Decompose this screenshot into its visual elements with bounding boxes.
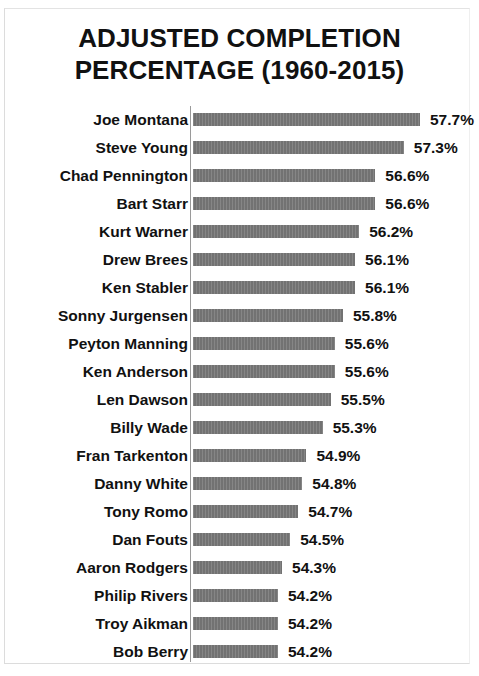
bar-category-label: Ken Anderson [83,358,188,386]
bar-value-label: 56.1% [365,246,409,274]
bar [193,533,290,546]
bar-category-label: Peyton Manning [68,330,188,358]
bar-row: Ken Stabler56.1% [0,274,479,302]
plot-area: Joe Montana57.7%Steve Young57.3%Chad Pen… [0,106,479,666]
bar-category-label: Joe Montana [93,106,188,134]
bar-value-label: 56.1% [365,274,409,302]
bar-value-label: 55.5% [341,386,385,414]
bar-value-label: 56.6% [385,190,429,218]
bar-value-label: 57.3% [414,134,458,162]
bar-value-label: 54.2% [288,638,332,666]
bar-category-label: Dan Fouts [112,526,188,554]
bar-row: Kurt Warner56.2% [0,218,479,246]
bar-category-label: Sonny Jurgensen [58,302,188,330]
bar [193,113,420,126]
bar-category-label: Ken Stabler [102,274,188,302]
bar-value-label: 55.6% [345,358,389,386]
bar [193,449,306,462]
chart-title: ADJUSTED COMPLETION PERCENTAGE (1960-201… [0,22,479,86]
bar-category-label: Bob Berry [113,638,188,666]
bar-row: Steve Young57.3% [0,134,479,162]
bar [193,281,355,294]
bar-row: Tony Romo54.7% [0,498,479,526]
bar-category-label: Aaron Rodgers [76,554,188,582]
bar-row: Chad Pennington56.6% [0,162,479,190]
bar-row: Sonny Jurgensen55.8% [0,302,479,330]
bar [193,141,404,154]
chart-page: ADJUSTED COMPLETION PERCENTAGE (1960-201… [0,0,479,676]
bar-value-label: 54.5% [300,526,344,554]
bar-category-label: Chad Pennington [60,162,188,190]
bar [193,393,331,406]
bar-value-label: 55.6% [345,330,389,358]
bar-category-label: Bart Starr [117,190,189,218]
bar-category-label: Tony Romo [104,498,188,526]
bar [193,309,343,322]
bar-value-label: 56.2% [369,218,413,246]
bar-row: Ken Anderson55.6% [0,358,479,386]
bar-value-label: 57.7% [430,106,474,134]
bar-value-label: 56.6% [385,162,429,190]
bar-category-label: Philip Rivers [94,582,188,610]
bar-row: Aaron Rodgers54.3% [0,554,479,582]
bar [193,421,323,434]
bar-row: Fran Tarkenton54.9% [0,442,479,470]
bar-row: Dan Fouts54.5% [0,526,479,554]
bar [193,589,278,602]
bar-row: Peyton Manning55.6% [0,330,479,358]
bar-value-label: 54.9% [316,442,360,470]
bar-category-label: Billy Wade [110,414,188,442]
bar-category-label: Steve Young [96,134,188,162]
bar-row: Billy Wade55.3% [0,414,479,442]
chart-title-line-1: ADJUSTED COMPLETION [0,22,479,54]
bar-category-label: Kurt Warner [99,218,188,246]
bar-row: Bob Berry54.2% [0,638,479,666]
bar [193,197,375,210]
bar-row: Len Dawson55.5% [0,386,479,414]
bar-row: Philip Rivers54.2% [0,582,479,610]
bar [193,253,355,266]
bar [193,505,298,518]
bar-category-label: Len Dawson [97,386,188,414]
bar [193,225,359,238]
bar-category-label: Fran Tarkenton [76,442,188,470]
bar [193,337,335,350]
bar-category-label: Drew Brees [103,246,188,274]
bar-value-label: 55.8% [353,302,397,330]
bar-value-label: 54.8% [312,470,356,498]
bar-value-label: 54.3% [292,554,336,582]
bar-row: Drew Brees56.1% [0,246,479,274]
bar-row: Troy Aikman54.2% [0,610,479,638]
bar [193,169,375,182]
bar-row: Danny White54.8% [0,470,479,498]
bar-row: Joe Montana57.7% [0,106,479,134]
bar [193,645,278,658]
bar [193,365,335,378]
bar [193,561,282,574]
bar-row: Bart Starr56.6% [0,190,479,218]
bar-category-label: Troy Aikman [96,610,188,638]
bar [193,477,302,490]
bar-value-label: 54.7% [308,498,352,526]
bar [193,617,278,630]
bar-value-label: 54.2% [288,610,332,638]
bar-category-label: Danny White [94,470,188,498]
chart-title-line-2: PERCENTAGE (1960-2015) [0,54,479,86]
bar-value-label: 55.3% [333,414,377,442]
bar-value-label: 54.2% [288,582,332,610]
